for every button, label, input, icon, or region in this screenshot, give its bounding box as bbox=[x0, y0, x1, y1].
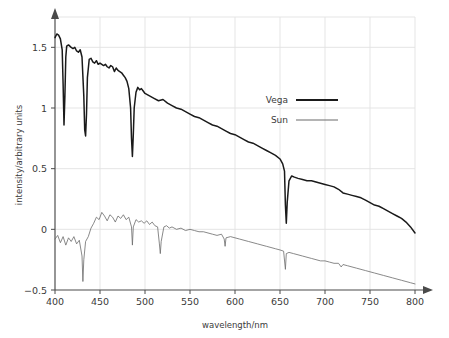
x-axis-title: wavelength/nm bbox=[202, 320, 268, 330]
y-axis-title: intensity/arbitrary units bbox=[14, 104, 24, 205]
axes bbox=[51, 8, 433, 294]
x-tick-label: 650 bbox=[271, 296, 289, 307]
tick-marks bbox=[51, 47, 415, 294]
x-tick-label: 600 bbox=[226, 296, 244, 307]
x-tick-label: 750 bbox=[361, 296, 379, 307]
y-tick-label: −0.5 bbox=[24, 285, 47, 296]
spectrum-chart-figure: 400450500550600650700750800 −0.500.511.5… bbox=[0, 0, 449, 338]
y-tick-label: 1.5 bbox=[32, 42, 47, 53]
y-tick-labels: −0.500.511.5 bbox=[24, 42, 47, 296]
x-axis-arrowhead bbox=[423, 286, 433, 294]
x-tick-label: 500 bbox=[136, 296, 154, 307]
x-tick-label: 400 bbox=[46, 296, 64, 307]
y-axis-arrowhead bbox=[51, 8, 59, 19]
legend-label-sun: Sun bbox=[271, 115, 288, 125]
x-tick-label: 800 bbox=[406, 296, 424, 307]
x-tick-labels: 400450500550600650700750800 bbox=[46, 296, 424, 307]
chart-legend: VegaSun bbox=[266, 95, 338, 125]
y-tick-label: 0 bbox=[41, 224, 47, 235]
y-tick-label: 0.5 bbox=[32, 163, 47, 174]
x-tick-label: 450 bbox=[91, 296, 109, 307]
y-tick-label: 1 bbox=[41, 103, 47, 114]
x-tick-label: 700 bbox=[316, 296, 334, 307]
chart-canvas: 400450500550600650700750800 −0.500.511.5… bbox=[0, 0, 449, 338]
legend-label-vega: Vega bbox=[266, 95, 288, 105]
gridlines bbox=[55, 17, 415, 290]
x-tick-label: 550 bbox=[181, 296, 199, 307]
